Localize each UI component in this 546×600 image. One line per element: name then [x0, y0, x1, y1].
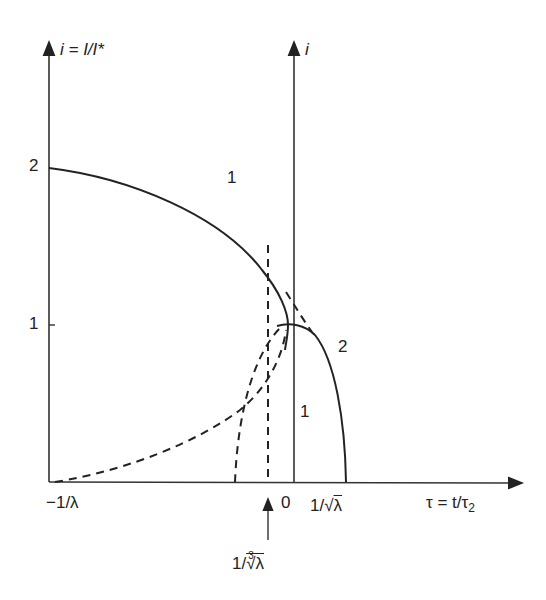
cube-root-label: 1/3√λ [232, 554, 264, 574]
sqrt-symbol: √ [324, 496, 333, 515]
y-tick-label-2: 2 [29, 156, 38, 176]
x-tick-sqrt-body: λ [334, 496, 343, 515]
curve-2-label: 2 [338, 337, 347, 357]
x-tick-sqrt-prefix: 1/ [310, 496, 324, 515]
x-tick-zero: 0 [281, 493, 290, 513]
curve-2 [277, 324, 346, 482]
x-tick-inverse-sqrt-lambda: 1/√λ [310, 496, 342, 516]
y-tick-label-1: 1 [29, 314, 38, 334]
cube-root-prefix: 1/ [232, 554, 246, 573]
inner-dashed-curve [235, 327, 281, 482]
right-axis-label: i [305, 40, 309, 60]
x-axis-label-text: τ = t/τ [426, 493, 468, 512]
curve-1-label: 1 [227, 168, 236, 188]
x-axis-label: τ = t/τ2 [426, 493, 475, 515]
cube-root-index: 3 [248, 550, 254, 561]
left-axis-label: i = I/I* [60, 40, 104, 60]
x-axis [49, 482, 516, 483]
x-tick-neg-inverse-lambda: −1/λ [46, 493, 79, 513]
lower-dashed-curve [55, 330, 286, 482]
x-axis-label-subscript: 2 [468, 501, 475, 515]
curve-1-lower-label: 1 [300, 402, 309, 422]
curve-1 [49, 168, 288, 350]
